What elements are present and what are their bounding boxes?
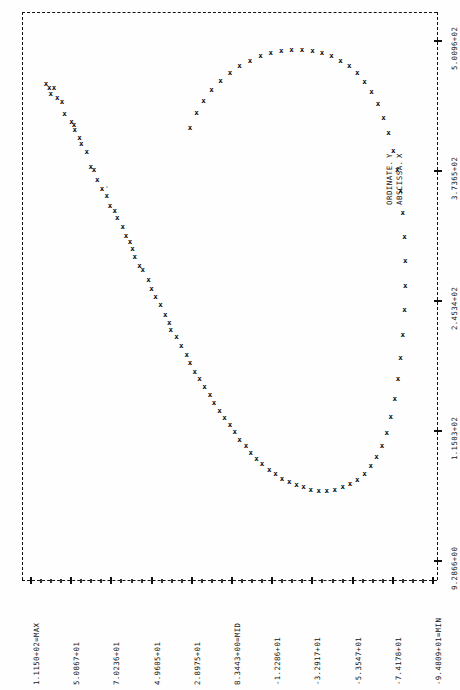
- ordinate-tick-label: 4.9605+01: [154, 642, 161, 685]
- ordinate-minor-tick: [362, 579, 364, 583]
- data-point: x: [84, 148, 90, 155]
- data-point: x: [227, 69, 233, 76]
- ordinate-tick-label: 2.8975+01: [194, 642, 201, 685]
- ordinate-tick-label: 1.1150+02=MAX: [33, 623, 40, 685]
- data-point: x: [354, 476, 360, 483]
- ordinate-minor-tick: [332, 579, 334, 583]
- data-point: x: [388, 413, 394, 420]
- data-point: x: [184, 351, 190, 358]
- data-point: x: [178, 342, 184, 349]
- data-point: x: [397, 187, 403, 194]
- data-point: x: [201, 383, 207, 390]
- data-point: x: [217, 77, 223, 84]
- ordinate-minor-tick: [392, 579, 394, 583]
- bottom-axis-rail: [22, 580, 437, 581]
- ordinate-tick-label: 8.3443+00=MID: [234, 623, 241, 685]
- plot-canvas: 1.1150+02=MAX5.0867+017.0236+014.9605+01…: [0, 0, 460, 690]
- ordinate-minor-tick: [342, 579, 344, 583]
- data-point: x: [120, 223, 126, 230]
- data-point: x: [332, 486, 338, 493]
- ordinate-minor-tick: [412, 579, 414, 583]
- data-point: x: [211, 399, 217, 406]
- legend: ORDINATE.YABSCISSA.X: [385, 150, 405, 205]
- ordinate-minor-tick: [201, 579, 203, 583]
- data-point: x: [401, 233, 407, 240]
- data-point: x: [397, 354, 403, 361]
- data-point: x: [78, 140, 84, 147]
- ordinate-minor-tick: [110, 579, 112, 583]
- data-point: x: [232, 428, 238, 435]
- data-point: x: [369, 88, 375, 95]
- ordinate-minor-tick: [191, 579, 193, 583]
- data-point: x: [385, 129, 391, 136]
- data-point: x: [209, 86, 215, 93]
- ordinate-minor-tick: [432, 579, 434, 583]
- ordinate-minor-tick: [100, 579, 102, 583]
- data-point: x: [259, 460, 265, 467]
- ordinate-minor-tick: [161, 579, 163, 583]
- ordinate-tick-label: -3.2917+01: [314, 637, 321, 685]
- top-axis-rail: [22, 12, 437, 13]
- data-point: x: [316, 487, 322, 494]
- data-point: x: [402, 282, 408, 289]
- data-point: x: [237, 62, 243, 69]
- data-point: x: [379, 442, 385, 449]
- data-point: x: [201, 97, 207, 104]
- data-point: x: [289, 46, 295, 53]
- data-point: x: [187, 124, 193, 131]
- abscissa-tick-label: 3.7365+02: [451, 157, 458, 200]
- ordinate-minor-tick: [80, 579, 82, 583]
- data-point: x: [237, 436, 243, 443]
- data-point: x: [257, 52, 263, 59]
- ordinate-tick-label: -9.4809+01=MIN: [435, 618, 442, 685]
- data-point: x: [400, 209, 406, 216]
- ordinate-minor-tick: [291, 579, 293, 583]
- ordinate-minor-tick: [211, 579, 213, 583]
- ordinate-tick-label: -5.3547+01: [355, 637, 362, 685]
- data-point: x: [145, 276, 151, 283]
- legend-entry-symbol: X: [395, 150, 405, 160]
- ordinate-tick-label: -1.2286+01: [274, 637, 281, 685]
- data-point: x: [157, 301, 163, 308]
- ordinate-minor-tick: [311, 579, 313, 583]
- ordinate-minor-tick: [261, 579, 263, 583]
- ordinate-minor-tick: [120, 579, 122, 583]
- data-point: x: [392, 395, 398, 402]
- ordinate-minor-tick: [40, 579, 42, 583]
- speck-artifact: [106, 186, 108, 188]
- data-point: x: [61, 110, 67, 117]
- data-point: x: [299, 46, 305, 53]
- abscissa-axis-rail: [437, 12, 438, 580]
- ordinate-minor-tick: [382, 579, 384, 583]
- data-point: x: [114, 214, 120, 221]
- data-point: x: [346, 62, 352, 69]
- data-point: x: [268, 49, 274, 56]
- abscissa-tick-label: 2.4534+02: [451, 287, 458, 330]
- legend-entry: ABSCISSA.X: [395, 150, 405, 205]
- data-point: x: [286, 478, 292, 485]
- data-point: x: [132, 253, 138, 260]
- ordinate-minor-tick: [70, 579, 72, 583]
- ordinate-tick-label: -7.4178+01: [395, 637, 402, 685]
- ordinate-tick-label: 5.0867+01: [73, 642, 80, 685]
- ordinate-axis-rail: [22, 12, 23, 580]
- data-point: x: [247, 57, 253, 64]
- data-point: x: [354, 69, 360, 76]
- data-point: x: [368, 462, 374, 469]
- ordinate-minor-tick: [301, 579, 303, 583]
- data-point: x: [373, 453, 379, 460]
- data-point: x: [94, 176, 100, 183]
- legend-entry: ORDINATE.Y: [385, 150, 395, 205]
- data-point: x: [309, 47, 315, 54]
- data-point: x: [401, 306, 407, 313]
- data-point: x: [375, 100, 381, 107]
- ordinate-minor-tick: [30, 579, 32, 583]
- ordinate-minor-tick: [422, 579, 424, 583]
- ordinate-tick-label: 7.0236+01: [113, 642, 120, 685]
- data-point: x: [361, 470, 367, 477]
- ordinate-minor-tick: [221, 579, 223, 583]
- data-point: x: [278, 47, 284, 54]
- abscissa-tick: [434, 300, 442, 302]
- data-point: x: [400, 331, 406, 338]
- ordinate-minor-tick: [281, 579, 283, 583]
